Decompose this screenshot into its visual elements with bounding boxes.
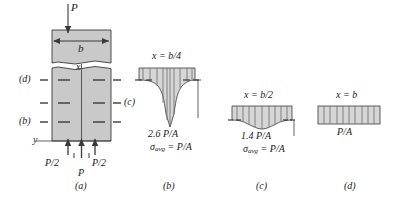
caption-a: (a) — [75, 181, 87, 191]
value-label-d: P/A — [337, 127, 352, 137]
caption-d: (d) — [344, 181, 356, 191]
caption-b: (b) — [163, 181, 175, 191]
sigma-subscript-c: avg — [248, 147, 258, 155]
panel-a-column — [36, 4, 121, 158]
section-label-c: (c) — [124, 97, 135, 107]
load-label-top: P — [71, 2, 78, 13]
peak-label-c: 1.4 P/A — [241, 131, 271, 141]
section-label-d: (d) — [19, 74, 31, 84]
sigma-equals-c: = P/A — [258, 143, 285, 154]
axis-y-label: y — [33, 135, 37, 145]
axis-x-label: x — [76, 62, 80, 72]
sigma-equals-b: = P/A — [165, 141, 192, 152]
section-label-b-quarter: x = b/4 — [152, 51, 181, 61]
reaction-label-center: P — [78, 168, 84, 178]
sigma-subscript-b: avg — [155, 145, 165, 153]
panel-d-stress-profile — [318, 106, 380, 124]
reaction-label-right: P/2 — [92, 158, 106, 168]
section-label-b-full: x = b — [336, 90, 357, 100]
caption-c: (c) — [256, 181, 267, 191]
reaction-arrows — [68, 139, 95, 158]
reaction-label-left: P/2 — [45, 158, 59, 168]
width-label-b: b — [78, 43, 84, 54]
avg-stress-label-c: σavg = P/A — [243, 144, 285, 155]
panel-b-stress-profile — [135, 68, 201, 127]
peak-label-b: 2.6 P/A — [148, 129, 178, 139]
avg-stress-label-b: σavg = P/A — [150, 142, 192, 153]
section-label-b-half: x = b/2 — [244, 90, 273, 100]
section-label-b: (b) — [19, 116, 31, 126]
figure-root: P b x y (d) (c) (b) P/2 P P/2 (a) x = b/… — [0, 0, 398, 198]
